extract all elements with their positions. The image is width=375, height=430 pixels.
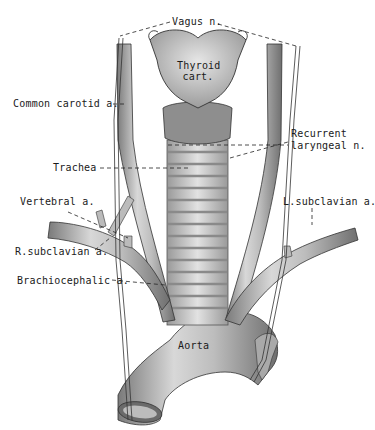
label-brachiocephalic: Brachiocephalic a. bbox=[17, 275, 129, 286]
label-left-subclavian: L.subclavian a. bbox=[283, 196, 375, 207]
label-vertebral-artery: Vertebral a. bbox=[20, 196, 95, 207]
cricoid-shape bbox=[163, 102, 232, 144]
label-recurrent-line1: Recurrent bbox=[291, 128, 347, 139]
anatomy-figure: Vagus n. Thyroid cart. Common carotid a.… bbox=[0, 0, 375, 430]
label-thyroid-cartilage-line2: cart. bbox=[177, 71, 219, 82]
label-trachea: Trachea bbox=[53, 162, 97, 173]
label-right-subclavian: R.subclavian a. bbox=[15, 246, 108, 257]
label-aorta: Aorta bbox=[178, 340, 209, 351]
label-thyroid-cartilage-line1: Thyroid bbox=[177, 60, 219, 71]
trachea-shape bbox=[167, 140, 228, 325]
label-common-carotid: Common carotid a. bbox=[13, 98, 119, 109]
label-recurrent-line2: laryngeal n. bbox=[291, 140, 366, 151]
aorta-shape bbox=[117, 312, 278, 425]
label-vagus-nerve: Vagus n. bbox=[172, 16, 222, 27]
